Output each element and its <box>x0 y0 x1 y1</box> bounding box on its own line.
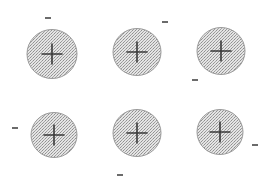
positive-charge-3 <box>192 28 245 81</box>
positive-charge-1 <box>27 18 77 79</box>
positive-charge-4 <box>12 113 77 158</box>
charge-diagram <box>0 0 275 182</box>
positive-charge-6 <box>197 110 258 155</box>
positive-charge-5 <box>113 110 161 176</box>
positive-charge-2 <box>113 22 168 76</box>
charges-layer <box>12 18 258 175</box>
